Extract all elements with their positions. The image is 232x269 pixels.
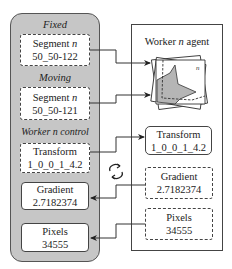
segment-image-stack: n [151, 55, 208, 110]
svg-text:n: n [196, 64, 200, 72]
diagram-connectors: n [0, 0, 232, 269]
sync-cycle-icon [110, 164, 123, 179]
